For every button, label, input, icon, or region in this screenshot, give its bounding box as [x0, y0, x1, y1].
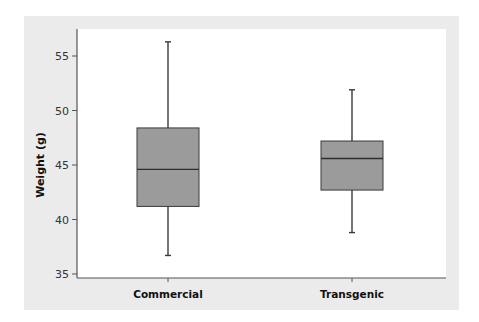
y-tick-label: 45: [55, 159, 69, 172]
iqr-box: [321, 141, 383, 190]
y-tick-label: 35: [55, 268, 69, 281]
iqr-box: [137, 128, 199, 206]
x-category-label: Transgenic: [320, 288, 384, 300]
box-plot-chart: 3540455055 CommercialTransgenic Weight (…: [0, 0, 479, 322]
y-tick-label: 50: [55, 105, 69, 118]
plot-area: [77, 29, 446, 278]
x-category-label: Commercial: [133, 288, 203, 300]
y-tick-label: 40: [55, 214, 69, 227]
y-axis-title: Weight (g): [34, 132, 47, 198]
y-tick-label: 55: [55, 50, 69, 63]
